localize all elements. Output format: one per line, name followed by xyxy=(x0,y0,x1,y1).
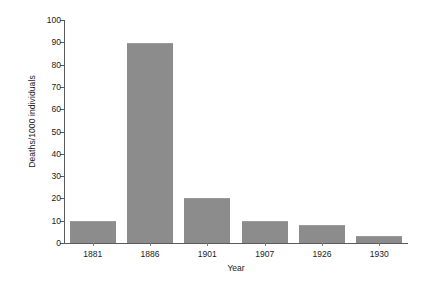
x-axis-title: Year xyxy=(64,263,408,273)
bar xyxy=(242,221,288,243)
bar-chart-figure: Deaths/1000 individuals 0102030405060708… xyxy=(0,0,428,287)
y-axis-title: Deaths/1000 individuals xyxy=(22,0,42,243)
plot-area: 0102030405060708090100 18811886190119071… xyxy=(64,20,408,243)
x-tick-label: 1926 xyxy=(293,248,350,260)
bars-layer xyxy=(64,20,408,243)
bar xyxy=(356,236,402,243)
y-tick-label: 20 xyxy=(52,192,61,204)
bar xyxy=(70,221,116,243)
y-tick-label: 70 xyxy=(52,81,61,93)
x-tick-mark xyxy=(379,243,380,246)
x-tick-label: 1881 xyxy=(64,248,121,260)
x-tick-mark xyxy=(207,243,208,246)
x-tick-label: 1886 xyxy=(121,248,178,260)
x-tick-mark xyxy=(150,243,151,246)
y-tick-label: 80 xyxy=(52,59,61,71)
x-tick-label: 1907 xyxy=(236,248,293,260)
y-tick-label: 30 xyxy=(52,170,61,182)
y-tick-label: 60 xyxy=(52,103,61,115)
x-tick-label: 1930 xyxy=(351,248,408,260)
x-axis-line xyxy=(64,243,408,244)
y-tick-label: 100 xyxy=(47,14,61,26)
bar xyxy=(127,43,173,243)
x-tick-mark xyxy=(265,243,266,246)
y-tick-label: 90 xyxy=(52,36,61,48)
y-tick-label: 10 xyxy=(52,215,61,227)
y-tick-label: 40 xyxy=(52,148,61,160)
x-tick-mark xyxy=(322,243,323,246)
x-tick-label: 1901 xyxy=(179,248,236,260)
y-tick-label: 0 xyxy=(56,237,61,249)
y-tick-label: 50 xyxy=(52,126,61,138)
x-tick-mark xyxy=(93,243,94,246)
bar xyxy=(299,225,345,243)
bar xyxy=(184,198,230,243)
